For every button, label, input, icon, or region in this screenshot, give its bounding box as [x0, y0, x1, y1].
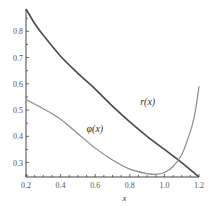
x-tick-label: 0.6: [90, 181, 100, 190]
series-phi-line: [26, 86, 199, 174]
y-tick-label: 0.6: [13, 80, 23, 89]
series-group: [26, 9, 199, 177]
annotation-phi: φ(x): [87, 123, 104, 135]
y-tick-label: 0.8: [13, 27, 23, 36]
x-tick-label: 0.4: [56, 181, 66, 190]
y-tick-label: 0.3: [13, 159, 23, 168]
series-r-line: [26, 9, 199, 177]
x-tick-label: 0.8: [125, 181, 135, 190]
x-axis-label: x: [122, 193, 127, 203]
x-tick-label: 1.2: [194, 181, 204, 190]
annotation-r: r(x): [140, 96, 156, 108]
annotations: r(x)φ(x): [87, 96, 156, 136]
y-tick-label: 0.4: [13, 132, 23, 141]
axes: 0.20.40.60.81.01.20.30.40.50.60.70.8x: [13, 9, 204, 203]
x-tick-label: 0.2: [21, 181, 31, 190]
y-tick-label: 0.5: [13, 106, 23, 115]
chart: 0.20.40.60.81.01.20.30.40.50.60.70.8x r(…: [0, 0, 215, 206]
y-tick-label: 0.7: [13, 54, 23, 63]
x-tick-label: 1.0: [159, 181, 169, 190]
